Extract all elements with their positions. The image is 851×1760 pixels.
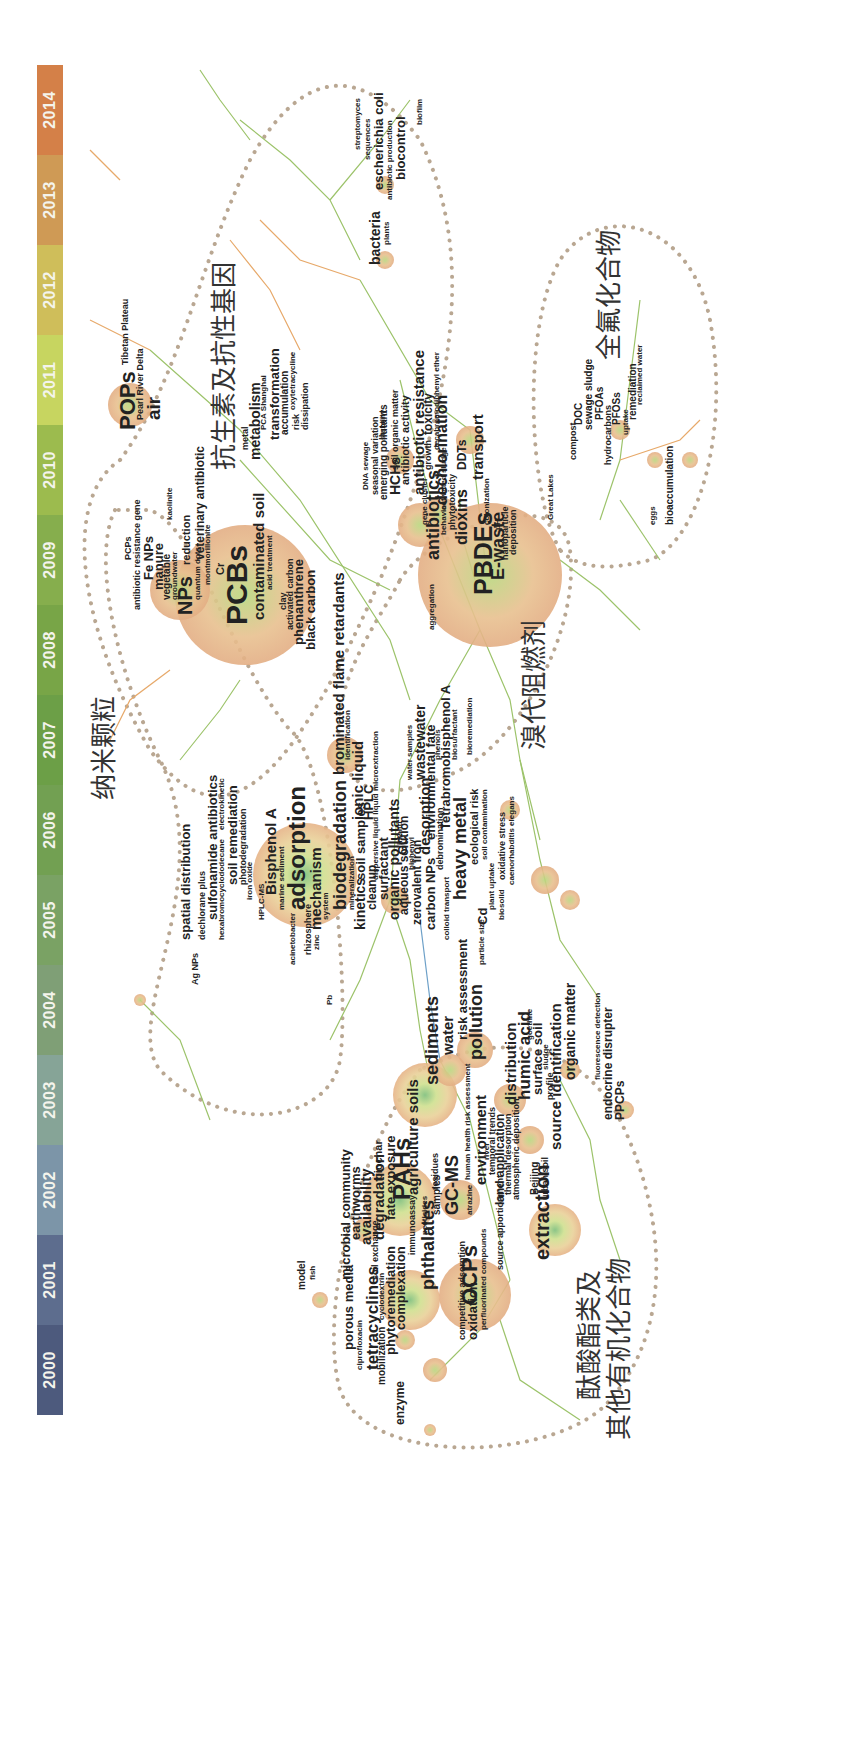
- keyword-label: biosolid: [498, 889, 506, 920]
- node-pfoss: [647, 452, 663, 468]
- keyword-label: reduction: [181, 515, 192, 565]
- keyword-label: porous media: [342, 1265, 355, 1350]
- keyword-label: Bisphenol A: [263, 808, 278, 895]
- keyword-label: PPCPs: [614, 1081, 626, 1120]
- keyword-label: Ag NPs: [191, 953, 200, 985]
- keyword-label: DDTs: [456, 440, 468, 470]
- keyword-label: perfluorinated compounds: [480, 1229, 488, 1330]
- keyword-label: ecological risk: [469, 789, 480, 865]
- keyword-label: caenorhabditis elegans: [508, 796, 516, 885]
- keyword-label: PCBs: [222, 545, 252, 625]
- node-tetracyclines: [395, 1330, 415, 1350]
- keyword-label: contaminated soil: [251, 492, 266, 620]
- keyword-label: enzyme: [394, 1381, 406, 1425]
- node-enzyme: [424, 1424, 436, 1436]
- cluster-label-phthalates: 酞酸酯类及 其他有机化合物: [575, 1258, 635, 1440]
- keyword-label: debromination: [436, 808, 445, 871]
- keyword-label: oxidative stress: [498, 812, 507, 880]
- keyword-label: eggs: [649, 506, 657, 525]
- node-ag-nps: [134, 994, 146, 1006]
- keyword-label: bacteria: [368, 211, 382, 265]
- keyword-label: atrazine: [466, 1185, 474, 1215]
- keyword-label: stability: [379, 410, 387, 440]
- node-heavy-metal: [531, 866, 559, 894]
- cluster-label-perfluoro: 全氟化合物: [595, 230, 625, 360]
- keyword-label: immunoassay: [408, 1195, 417, 1255]
- keyword-label: sediments: [423, 996, 441, 1085]
- keyword-label: fish: [309, 1266, 317, 1280]
- keyword-label: pollution: [467, 984, 485, 1060]
- keyword-label: extraction: [532, 1164, 552, 1260]
- keyword-label: streptomyces: [354, 98, 362, 150]
- cluster-label-line1: 酞酸酯类及: [575, 1258, 605, 1440]
- keyword-label: kaolinite: [166, 488, 174, 520]
- keyword-label: reclaimed water: [636, 345, 644, 405]
- node-remediation: [682, 452, 698, 468]
- keyword-label: compost: [569, 422, 578, 460]
- keyword-label: GC-MS: [443, 1155, 461, 1215]
- cluster-label-line2: 其他有机化合物: [605, 1258, 635, 1440]
- keyword-label: Tibetan Plateau: [121, 299, 130, 365]
- keyword-label: biocontrol: [394, 116, 407, 180]
- keyword-label: human health risk assessment: [464, 1064, 472, 1181]
- keyword-label: environment: [473, 1095, 488, 1185]
- keyword-label: dissipation: [301, 382, 310, 430]
- keyword-label: bioremediation: [466, 698, 474, 755]
- keyword-label: Great Lakes: [547, 474, 555, 520]
- cluster-label-antibiotics: 抗生素及抗性基因: [210, 262, 240, 470]
- keyword-label: oxytetracycline: [289, 352, 297, 410]
- keyword-label: iron oxide: [246, 862, 254, 900]
- keyword-label: atmospheric deposition: [512, 1098, 521, 1200]
- keyword-label: OCPs: [459, 1245, 481, 1305]
- network-figure: 2000200120022003200420052006200720082009…: [0, 0, 851, 1760]
- cluster-label-nanoparticles: 纳米颗粒: [90, 696, 120, 800]
- keyword-label: source apportionment: [496, 1175, 505, 1270]
- node-cd: [560, 890, 580, 910]
- keyword-label: escherichia coli: [372, 92, 385, 190]
- keyword-label: Pb: [326, 995, 334, 1005]
- keyword-label: biosurfactant: [451, 709, 459, 760]
- keyword-label: montmorillonite: [204, 525, 212, 585]
- cluster-label-bfr: 溴代阻燃剂: [520, 620, 550, 750]
- keyword-label: complexation: [394, 1246, 407, 1330]
- keyword-label: organic matter: [563, 983, 577, 1080]
- keyword-label: NPs: [175, 576, 195, 615]
- keyword-label: bioaccumulation: [665, 446, 675, 525]
- keyword-label: biofilm: [416, 99, 424, 125]
- keyword-label: transport: [470, 414, 485, 480]
- keyword-label: sewage sludge: [584, 359, 594, 430]
- keyword-label: adsorption: [285, 786, 309, 910]
- keyword-label: acid treatment: [266, 535, 274, 590]
- keyword-label: air: [144, 397, 163, 420]
- keyword-label: plant uptake: [488, 863, 496, 910]
- keyword-label: samples: [432, 1175, 442, 1215]
- keyword-label: acinetobacter: [289, 913, 297, 965]
- keyword-label: source identification: [548, 1003, 563, 1150]
- keyword-label: soil contamination: [481, 789, 489, 860]
- keyword-label: system: [322, 892, 330, 920]
- node-microbial-community: [312, 1292, 328, 1308]
- node-cu: [423, 1358, 447, 1382]
- keyword-label: desorption: [417, 778, 432, 856]
- keyword-label: zinc: [313, 934, 321, 950]
- keyword-label: particle size: [478, 919, 486, 965]
- keyword-label: plants: [383, 221, 391, 245]
- keyword-label: spatial distribution: [179, 824, 192, 940]
- keyword-label: deposition: [509, 510, 518, 556]
- keyword-label: aggregation: [428, 584, 436, 630]
- keyword-label: model: [297, 1261, 307, 1290]
- keyword-label: black carbon: [304, 570, 317, 650]
- cluster-outline-perfluoro: [534, 226, 717, 566]
- keyword-label: heavy metal: [451, 797, 469, 900]
- keyword-label: PAHs: [390, 1138, 414, 1200]
